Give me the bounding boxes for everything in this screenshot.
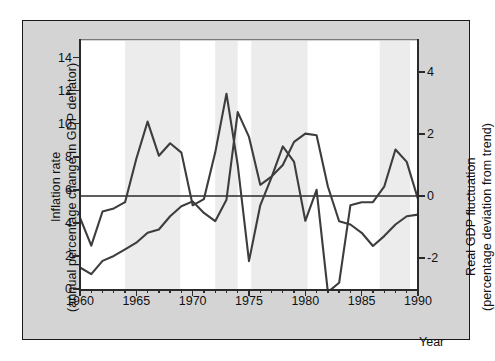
y-tick-label-right-0: 0 — [427, 189, 434, 203]
x-tick-label-1965: 1965 — [122, 294, 150, 308]
x-tick-label-1990: 1990 — [404, 294, 432, 308]
shaded-band-1 — [215, 41, 238, 289]
y-tick-label-left-14: 14 — [50, 51, 72, 65]
x-tick-minor-1971 — [203, 289, 204, 293]
x-tick-label-1980: 1980 — [291, 294, 319, 308]
y-tick-left-0 — [73, 288, 79, 290]
x-tick-minor-1969 — [181, 289, 182, 293]
plot-area — [80, 41, 418, 289]
x-tick-minor-1979 — [293, 289, 294, 293]
y-tick-label-left-6: 6 — [50, 183, 72, 197]
x-tick-minor-1983 — [338, 289, 339, 293]
shaded-bands-group — [125, 41, 410, 289]
plot-svg — [80, 41, 418, 289]
x-tick-label-1985: 1985 — [348, 294, 376, 308]
x-tick-minor-1961 — [91, 289, 92, 293]
x-tick-minor-1981 — [316, 289, 317, 293]
y-tick-right-2 — [419, 133, 425, 135]
x-tick-minor-1968 — [169, 289, 170, 293]
x-tick-minor-1988 — [395, 289, 396, 293]
y-tick-left-10 — [73, 123, 79, 125]
y-tick-label-right-4: 4 — [427, 65, 434, 79]
x-tick-minor-1966 — [147, 289, 148, 293]
y-tick-label-right-2: 2 — [427, 127, 434, 141]
y-tick-left-12 — [73, 90, 79, 92]
x-tick-minor-1964 — [124, 289, 125, 293]
x-tick-minor-1982 — [327, 289, 328, 293]
y-tick-left-8 — [73, 156, 79, 158]
y-tick-label-left-10: 10 — [50, 117, 72, 131]
x-tick-minor-1962 — [102, 289, 103, 293]
x-tick-minor-1963 — [113, 289, 114, 293]
x-tick-label-1970: 1970 — [179, 294, 207, 308]
y-tick-right-4 — [419, 71, 425, 73]
shaded-band-0 — [125, 41, 180, 289]
x-tick-label-1960: 1960 — [66, 294, 94, 308]
x-tick-minor-1987 — [384, 289, 385, 293]
y-tick-label-left-8: 8 — [50, 150, 72, 164]
y-tick-label-left-12: 12 — [50, 84, 72, 98]
right-axis-title-line2: (percentage deviation from trend) — [480, 101, 495, 333]
x-tick-minor-1972 — [215, 289, 216, 293]
y-tick-label-left-4: 4 — [50, 216, 72, 230]
x-axis-title: Year — [419, 335, 444, 349]
x-tick-minor-1986 — [372, 289, 373, 293]
shaded-band-2 — [251, 41, 307, 289]
right-axis-title: Real GDP fluctuation (percentage deviati… — [464, 101, 495, 333]
shaded-band-3 — [380, 41, 410, 289]
x-tick-minor-1989 — [406, 289, 407, 293]
y-tick-left-14 — [73, 57, 79, 59]
x-tick-minor-1974 — [237, 289, 238, 293]
axis-spine-top — [79, 39, 419, 40]
y-tick-left-2 — [73, 255, 79, 257]
x-tick-minor-1967 — [158, 289, 159, 293]
y-tick-label-right--2: -2 — [427, 251, 438, 265]
axis-spine-left — [79, 39, 81, 291]
y-tick-label-left-2: 2 — [50, 249, 72, 263]
x-tick-minor-1978 — [282, 289, 283, 293]
x-tick-minor-1976 — [260, 289, 261, 293]
right-axis-title-line1: Real GDP fluctuation — [464, 101, 480, 333]
y-tick-left-4 — [73, 222, 79, 224]
y-tick-left-6 — [73, 189, 79, 191]
axis-spine-right — [417, 39, 419, 291]
x-tick-minor-1973 — [226, 289, 227, 293]
x-tick-label-1975: 1975 — [235, 294, 263, 308]
x-tick-minor-1977 — [271, 289, 272, 293]
y-tick-right-0 — [419, 195, 425, 197]
y-tick-right--2 — [419, 257, 425, 259]
x-tick-minor-1984 — [350, 289, 351, 293]
